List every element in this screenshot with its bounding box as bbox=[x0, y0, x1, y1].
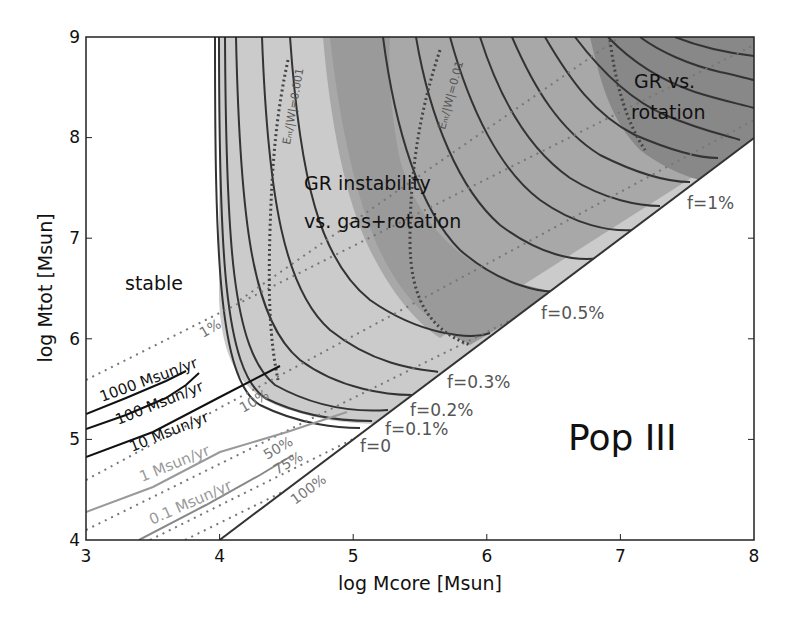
y-tick-7: 7 bbox=[69, 228, 80, 248]
label-gr-gas-line2: vs. gas+rotation bbox=[304, 210, 461, 232]
x-tick-7: 7 bbox=[615, 546, 626, 566]
x-tick-8: 8 bbox=[749, 546, 760, 566]
label-f03: f=0.3% bbox=[447, 372, 510, 392]
x-axis-title: log Mcore [Msun] bbox=[338, 572, 502, 594]
x-tick-6: 6 bbox=[481, 546, 492, 566]
x-tick-4: 4 bbox=[214, 546, 225, 566]
x-tick-3: 3 bbox=[81, 546, 92, 566]
label-stable: stable bbox=[125, 272, 183, 294]
label-gr-rot-line1: GR vs. bbox=[634, 70, 695, 92]
y-tick-5: 5 bbox=[69, 429, 80, 449]
label-gr-gas-line1: GR instability bbox=[304, 172, 431, 194]
label-pop-iii: Pop III bbox=[568, 417, 677, 458]
label-f01: f=0.1% bbox=[385, 419, 448, 439]
y-tick-8: 8 bbox=[69, 127, 80, 147]
x-tick-5: 5 bbox=[348, 546, 359, 566]
label-gr-rot-line2: rotation bbox=[631, 101, 706, 123]
y-tick-6: 6 bbox=[69, 329, 80, 349]
y-tick-9: 9 bbox=[69, 27, 80, 47]
label-f1: f=1% bbox=[687, 193, 734, 213]
label-f05: f=0.5% bbox=[541, 303, 604, 323]
y-tick-4: 4 bbox=[69, 530, 80, 550]
y-axis-title: log Mtot [Msun] bbox=[34, 213, 56, 362]
label-f0: f=0 bbox=[360, 436, 391, 456]
phase-diagram-chart: 3 4 5 6 7 8 4 5 6 7 8 9 log Mcore [Msun]… bbox=[0, 0, 794, 620]
label-f02: f=0.2% bbox=[410, 400, 473, 420]
